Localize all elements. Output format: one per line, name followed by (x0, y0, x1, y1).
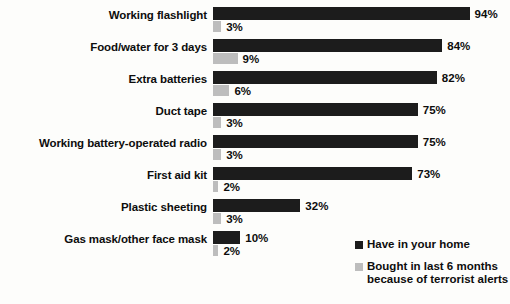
bar-group: 75%3% (213, 128, 510, 160)
bar-primary (213, 135, 418, 148)
bar-value-primary: 10% (245, 232, 268, 244)
bar-primary (213, 231, 240, 244)
bar-primary (213, 7, 470, 20)
category-label: Duct tape (0, 105, 207, 118)
bar-value-primary: 75% (423, 104, 446, 116)
bar-value-primary: 84% (447, 40, 470, 52)
category-label: Working battery-operated radio (0, 137, 207, 150)
bar-group: 75%3% (213, 96, 510, 128)
bar-primary (213, 71, 437, 84)
legend-item-bought-in-last-6-months: Bought in last 6 months because of terro… (355, 260, 510, 286)
bar-secondary (213, 213, 221, 224)
bar-group: 73%2% (213, 160, 510, 192)
bar-secondary (213, 149, 221, 160)
category-label: Extra batteries (0, 73, 207, 86)
bar-secondary (213, 117, 221, 128)
bar-value-primary: 82% (442, 72, 465, 84)
bar-primary (213, 167, 412, 180)
bar-group: 94%3% (213, 0, 510, 32)
legend-swatch-primary-icon (355, 241, 363, 249)
bar-secondary (213, 181, 218, 192)
bar-value-primary: 32% (305, 200, 328, 212)
bar-value-primary: 73% (417, 168, 440, 180)
bar-primary (213, 39, 442, 52)
bar-value-primary: 94% (475, 8, 498, 20)
bar-secondary (213, 53, 238, 64)
bar-group: 82%6% (213, 64, 510, 96)
category-label: Plastic sheeting (0, 201, 207, 214)
legend-item-have-in-your-home: Have in your home (355, 238, 510, 251)
chart-row: Working flashlight94%3% (0, 0, 510, 32)
bar-primary (213, 103, 418, 116)
bar-group: 84%9% (213, 32, 510, 64)
category-label: First aid kit (0, 169, 207, 182)
bar-secondary (213, 245, 218, 256)
bar-chart: Working flashlight94%3%Food/water for 3 … (0, 0, 510, 304)
legend-label-secondary-line2: because of terrorist alerts (367, 273, 510, 286)
category-label: Food/water for 3 days (0, 41, 207, 54)
chart-plot-area: Working flashlight94%3%Food/water for 3 … (0, 0, 510, 256)
chart-row: Extra batteries82%6% (0, 64, 510, 96)
bar-group: 32%3% (213, 192, 510, 224)
chart-legend: Have in your home Bought in last 6 month… (355, 238, 510, 295)
bar-primary (213, 199, 300, 212)
category-label: Gas mask/other face mask (0, 233, 207, 246)
chart-row: Plastic sheeting32%3% (0, 192, 510, 224)
category-label: Working flashlight (0, 9, 207, 22)
chart-row: Working battery-operated radio75%3% (0, 128, 510, 160)
legend-swatch-secondary-icon (355, 263, 363, 271)
bar-value-primary: 75% (423, 136, 446, 148)
chart-row: First aid kit73%2% (0, 160, 510, 192)
chart-row: Food/water for 3 days84%9% (0, 32, 510, 64)
legend-label-primary: Have in your home (367, 238, 510, 251)
bar-secondary (213, 21, 221, 32)
chart-row: Duct tape75%3% (0, 96, 510, 128)
bar-secondary (213, 85, 229, 96)
legend-label-secondary-line1: Bought in last 6 months (367, 260, 510, 273)
bar-value-secondary: 2% (223, 245, 240, 257)
